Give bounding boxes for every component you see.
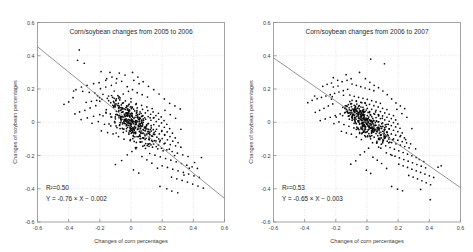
- scatter-point: [172, 132, 174, 134]
- scatter-point: [347, 110, 349, 112]
- scatter-point: [347, 88, 349, 90]
- scatter-point: [364, 102, 366, 104]
- two-panel-scatter-figure: -0.6-0.4-0.200.20.40.6 -0.6-0.4-0.200.20…: [0, 0, 473, 252]
- scatter-point: [363, 123, 365, 125]
- scatter-point: [362, 114, 364, 116]
- scatter-point: [370, 58, 372, 60]
- scatter-point: [349, 101, 351, 103]
- scatter-point: [145, 127, 147, 129]
- scatter-point: [390, 133, 392, 135]
- scatter-point: [146, 128, 148, 130]
- scatter-point: [183, 174, 185, 176]
- scatter-point: [154, 134, 156, 136]
- scatter-point: [351, 115, 353, 117]
- scatter-point: [191, 166, 193, 168]
- scatter-point: [377, 135, 379, 137]
- scatter-point: [375, 133, 377, 135]
- scatter-point: [115, 82, 117, 84]
- scatter-point: [164, 134, 166, 136]
- scatter-point: [382, 115, 384, 117]
- scatter-point: [177, 192, 179, 194]
- scatter-point: [346, 80, 348, 82]
- scatter-point: [202, 187, 204, 189]
- scatter-point: [371, 108, 373, 110]
- scatter-point: [150, 125, 152, 127]
- scatter-point: [125, 100, 127, 102]
- scatter-point: [351, 133, 353, 135]
- scatter-point: [134, 121, 136, 123]
- scatter-point: [119, 128, 121, 130]
- scatter-point: [144, 139, 146, 141]
- scatter-point: [132, 72, 134, 74]
- scatter-point: [370, 121, 372, 123]
- scatter-point: [367, 136, 369, 138]
- scatter-point: [307, 102, 309, 104]
- scatter-point: [394, 155, 396, 157]
- scatter-point: [437, 166, 439, 168]
- scatter-point: [169, 102, 171, 104]
- scatter-point: [151, 162, 153, 164]
- scatter-point: [106, 97, 108, 99]
- scatter-point: [351, 103, 353, 105]
- scatter-point: [172, 140, 174, 142]
- scatter-point: [349, 112, 351, 114]
- scatter-point: [169, 114, 171, 116]
- scatter-point: [337, 85, 339, 87]
- scatter-point: [130, 124, 132, 126]
- scatter-point: [118, 136, 120, 138]
- scatter-point: [395, 134, 397, 136]
- scatter-point: [322, 85, 324, 87]
- scatter-point: [164, 126, 166, 128]
- scatter-point: [158, 125, 160, 127]
- scatter-point: [382, 90, 384, 92]
- y-tick-label: -0.4: [261, 186, 270, 192]
- scatter-point: [386, 168, 388, 170]
- scatter-point: [359, 72, 361, 74]
- scatter-point: [369, 88, 371, 90]
- y-tick-label: -0.2: [261, 153, 270, 159]
- scatter-point: [131, 115, 133, 117]
- scatter-point: [354, 117, 356, 119]
- y-tick-labels: -0.6-0.4-0.200.20.40.6: [261, 20, 270, 226]
- scatter-point: [378, 87, 380, 89]
- scatter-point: [177, 152, 179, 154]
- scatter-point: [176, 178, 178, 180]
- y-tick-label: 0.6: [27, 20, 35, 26]
- scatter-point: [158, 118, 160, 120]
- scatter-point: [127, 126, 129, 128]
- scatter-point: [140, 138, 142, 140]
- scatter-point: [391, 142, 393, 144]
- scatter-point: [388, 128, 390, 130]
- scatter-point: [332, 77, 334, 79]
- scatter-point: [135, 115, 137, 117]
- scatter-point: [73, 90, 75, 92]
- scatter-point: [381, 126, 383, 128]
- scatter-point: [122, 108, 124, 110]
- scatter-point: [398, 163, 400, 165]
- scatter-point: [175, 161, 177, 163]
- scatter-point: [143, 127, 145, 129]
- scatter-point: [118, 102, 120, 104]
- scatter-point: [361, 133, 363, 135]
- scatter-point: [68, 101, 70, 103]
- scatter-point: [152, 129, 154, 131]
- scatter-point: [319, 109, 321, 111]
- scatter-point: [358, 105, 360, 107]
- scatter-point: [337, 80, 339, 82]
- scatter-point: [420, 165, 422, 167]
- scatter-point: [360, 114, 362, 116]
- scatter-point: [128, 103, 130, 105]
- scatter-point: [388, 142, 390, 144]
- scatter-point: [159, 133, 161, 135]
- panel-2005-2006: -0.6-0.4-0.200.20.40.6 -0.6-0.4-0.200.20…: [0, 0, 236, 252]
- scatter-point: [343, 94, 345, 96]
- scatter-point: [124, 74, 126, 76]
- scatter-point: [375, 109, 377, 111]
- scatter-point: [411, 155, 413, 157]
- scatter-point: [85, 101, 87, 103]
- scatter-point: [381, 117, 383, 119]
- scatter-point: [332, 103, 334, 105]
- scatter-point: [146, 145, 148, 147]
- scatter-point: [130, 101, 132, 103]
- x-tick-label: -0.2: [95, 225, 104, 231]
